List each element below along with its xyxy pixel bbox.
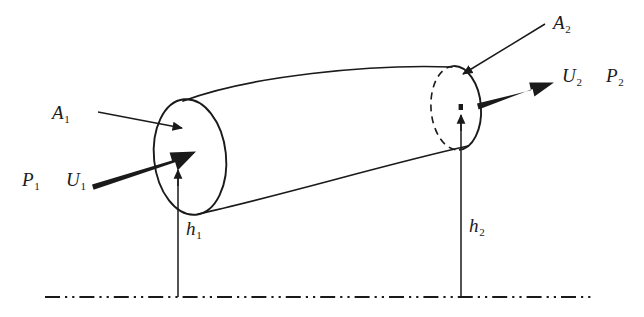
- outlet-ellipse-hidden-back-half: [428, 66, 459, 152]
- velocity-vectors: [92, 83, 554, 190]
- label-pressure-inlet: P1: [22, 170, 40, 189]
- streamtube-body: [183, 67, 468, 214]
- figure-vector-canvas: [0, 0, 644, 317]
- h2-arrow-tip-tick: [459, 104, 463, 110]
- outlet-cross-section-group: [428, 64, 484, 151]
- label-pressure-outlet: P2: [606, 66, 624, 85]
- label-height-inlet: h1: [186, 219, 201, 238]
- label-area-inlet: A1: [52, 103, 70, 122]
- label-velocity-inlet: U1: [66, 170, 86, 189]
- elevation-arrowheads: [178, 115, 461, 186]
- A2-leader-arrow: [463, 24, 545, 74]
- tube-top-wall: [183, 67, 452, 101]
- label-height-outlet: h2: [469, 216, 484, 235]
- U2-velocity-arrow: [477, 83, 554, 110]
- tube-bottom-wall: [198, 146, 468, 214]
- U1-velocity-arrow: [92, 151, 196, 189]
- label-velocity-outlet: U2: [562, 66, 582, 85]
- label-area-outlet: A2: [553, 13, 571, 32]
- streamtube-bernoulli-figure: A1 A2 P1 U1 U2 P2 h1 h2: [0, 0, 644, 317]
- A1-leader-arrow: [98, 112, 182, 128]
